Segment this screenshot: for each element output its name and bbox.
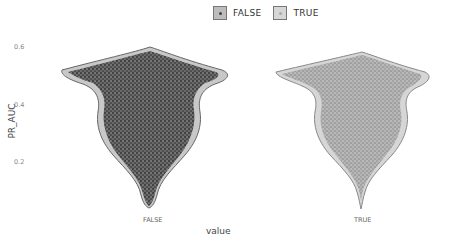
violin-true xyxy=(276,52,429,209)
violin-plot-area xyxy=(0,0,453,241)
violin-false xyxy=(62,47,228,208)
x-tick-false: FALSE xyxy=(143,216,162,224)
x-tick-true: TRUE xyxy=(354,216,371,224)
x-axis-title: value xyxy=(206,226,231,236)
